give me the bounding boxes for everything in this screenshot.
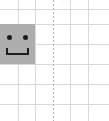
smiley-face-icon[interactable] [0,24,35,64]
grid-line-horizontal [0,64,109,65]
grid-line-horizontal [0,84,109,85]
grid-line-vertical [35,0,36,121]
smiley-eye-right-icon [23,35,28,40]
smiley-eye-left-icon [7,35,12,40]
page-break-line [53,0,54,121]
grid-line-horizontal [0,9,109,10]
clipped-text-glyph-left: · [3,0,5,1]
grid-line-vertical [70,0,71,121]
smiley-mouth-icon [6,48,29,55]
grid-line-vertical [88,0,89,121]
spreadsheet-grid-canvas[interactable]: · ▭ [0,0,109,121]
clipped-text-glyph-right: ▭ [61,0,68,1]
grid-line-horizontal [0,104,109,105]
